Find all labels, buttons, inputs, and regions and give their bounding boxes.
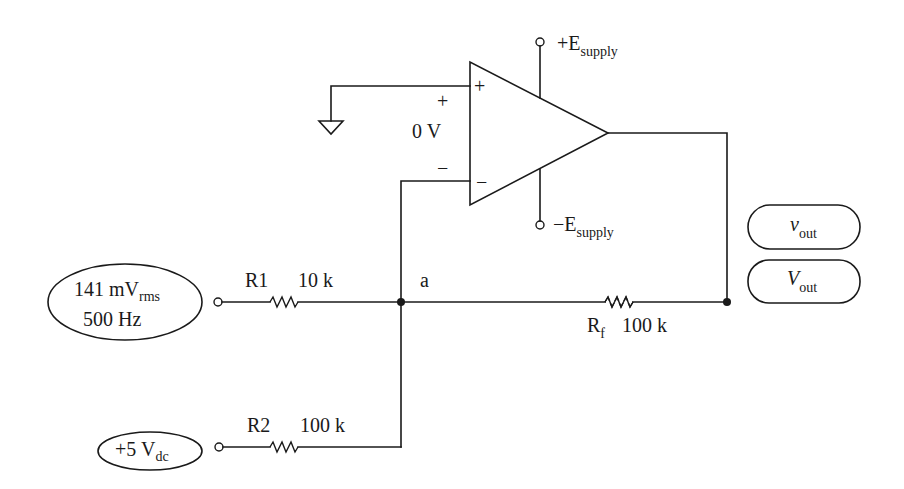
circuit-diagram: + − +Esupply −Esupply + 0 V − 141 mVrms … — [0, 0, 904, 489]
ground-wire — [331, 86, 470, 121]
positive-supply-label: +Esupply — [557, 32, 618, 59]
r2-value: 100 k — [300, 414, 345, 436]
rf-name: Rf — [587, 314, 605, 341]
ground-icon — [319, 121, 343, 134]
negative-supply-terminal[interactable] — [536, 221, 544, 229]
inverting-input-wire — [401, 181, 470, 447]
diff-voltage-value: 0 V — [412, 120, 442, 142]
dc-source-label: +5 Vdc — [115, 438, 169, 464]
output-ac-label: vout — [790, 213, 817, 241]
dc-source-terminal[interactable] — [215, 443, 223, 451]
resistor-r1 — [270, 297, 298, 307]
resistor-r2 — [270, 442, 298, 452]
positive-supply-terminal[interactable] — [536, 38, 544, 46]
opamp-minus-symbol: − — [476, 171, 487, 193]
summing-node-junction — [397, 298, 405, 306]
summing-node-label: a — [420, 269, 429, 291]
output-wire — [608, 133, 727, 302]
opamp-triangle — [470, 62, 608, 205]
output-dc-label: Vout — [787, 267, 817, 295]
r1-value: 10 k — [298, 269, 333, 291]
diff-voltage-plus: + — [437, 90, 448, 112]
opamp-plus-symbol: + — [474, 75, 485, 97]
rf-value: 100 k — [622, 314, 667, 336]
ac-source-amplitude: 141 mVrms — [74, 278, 160, 304]
ac-source-frequency: 500 Hz — [83, 308, 141, 330]
r2-name: R2 — [247, 414, 270, 436]
diff-voltage-minus: − — [437, 157, 448, 179]
negative-supply-label: −Esupply — [553, 213, 614, 240]
output-junction — [723, 298, 731, 306]
ac-source-terminal[interactable] — [214, 298, 222, 306]
r1-name: R1 — [245, 269, 268, 291]
